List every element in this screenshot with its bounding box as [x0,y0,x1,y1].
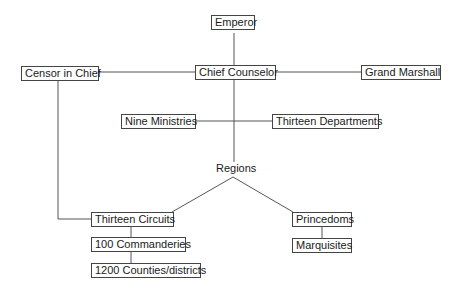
node-emperor: Emperor [211,15,255,30]
node-100-commanderies: 100 Commanderies [91,237,186,252]
node-princedoms: Princedoms [292,212,352,227]
node-marquisites: Marquisites [292,238,352,253]
edge-regions-circuits [172,177,233,212]
node-1200-counties-districts: 1200 Counties/districts [91,263,201,278]
node-regions: Regions [215,162,257,175]
node-thirteen-circuits: Thirteen Circuits [91,212,174,227]
node-thirteen-departments: Thirteen Departments [272,114,379,129]
node-censor-in-chief: Censor in Chief [21,66,99,81]
node-chief-counselor: Chief Counselor [195,65,276,80]
node-grand-marshall: Grand Marshall [361,65,441,80]
edge-regions-princedoms [233,177,293,212]
node-nine-ministries: Nine Ministries [121,114,196,129]
connector-lines [0,0,462,289]
